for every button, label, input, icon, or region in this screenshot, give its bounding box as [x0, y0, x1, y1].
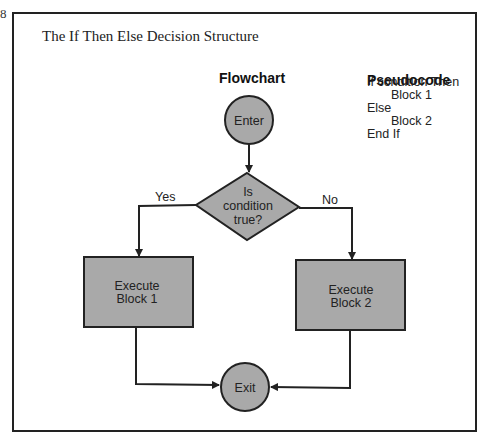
block2-label-line: Block 2 — [331, 296, 372, 310]
no-label: No — [322, 193, 338, 207]
exit-node: Exit — [221, 363, 269, 411]
decision-node: Is condition true? — [196, 173, 299, 240]
enter-node: Enter — [225, 96, 273, 144]
arrow-no-to-block2 — [299, 208, 352, 259]
arrow-block1-to-exit — [136, 327, 219, 385]
decision-label-line: condition — [223, 199, 273, 213]
yes-label: Yes — [155, 190, 175, 204]
block2-label-line: Execute — [328, 283, 373, 297]
block2-node: Execute Block 2 — [296, 260, 405, 330]
decision-label-line: true? — [234, 213, 263, 227]
decision-label-line: Is — [243, 185, 253, 199]
arrow-yes-to-block1 — [139, 205, 196, 256]
block1-label-line: Execute — [114, 279, 159, 293]
block1-label-line: Block 1 — [117, 292, 158, 306]
enter-label: Enter — [234, 114, 264, 128]
block1-node: Execute Block 1 — [84, 257, 193, 327]
arrow-block2-to-exit — [271, 330, 350, 388]
flowchart-diagram: Enter Is condition true? Yes No Execute … — [0, 0, 497, 447]
exit-label: Exit — [235, 381, 256, 395]
